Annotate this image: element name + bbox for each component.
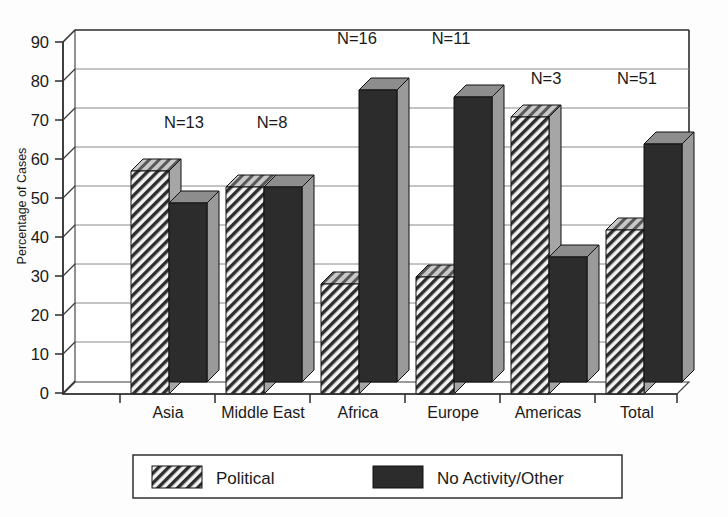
x-category-label-total: Total xyxy=(620,404,654,421)
legend-label-no-activity: No Activity/Other xyxy=(437,469,564,488)
legend-item-no-activity[interactable]: No Activity/Other xyxy=(373,466,564,488)
legend-swatch-political-icon xyxy=(152,466,202,488)
legend-label-political: Political xyxy=(216,469,275,488)
bar-africa-no-activity[interactable] xyxy=(359,78,409,382)
bar-group-middle-east xyxy=(226,175,314,394)
x-category-label-americas: Americas xyxy=(515,404,582,421)
annotation-n-middle-east: N=8 xyxy=(257,113,288,131)
y-tick-label-90: 90 xyxy=(31,33,49,51)
annotation-n-africa: N=16 xyxy=(337,29,377,47)
bar-chart-svg: 90 80 70 60 50 40 30 20 10 0 Percentage … xyxy=(0,0,728,517)
y-tick-label-0: 0 xyxy=(40,384,49,402)
annotation-n-asia: N=13 xyxy=(164,113,204,131)
bar-americas-no-activity[interactable] xyxy=(549,245,599,382)
y-tick-label-10: 10 xyxy=(31,345,49,363)
y-tick-label-50: 50 xyxy=(31,189,49,207)
annotation-n-americas: N=3 xyxy=(531,69,562,87)
plot-left-wall xyxy=(63,30,75,394)
y-tick-label-30: 30 xyxy=(31,267,49,285)
y-tick-label-60: 60 xyxy=(31,150,49,168)
bar-asia-no-activity[interactable] xyxy=(169,191,219,382)
chart-root: 90 80 70 60 50 40 30 20 10 0 Percentage … xyxy=(0,0,728,517)
y-axis-title: Percentage of Cases xyxy=(15,148,29,265)
bar-europe-no-activity[interactable] xyxy=(454,85,504,382)
y-tick-label-40: 40 xyxy=(31,228,49,246)
x-category-label-africa: Africa xyxy=(338,404,379,421)
x-category-label-europe: Europe xyxy=(427,404,479,421)
x-category-label-asia: Asia xyxy=(152,404,183,421)
x-category-label-middle-east: Middle East xyxy=(221,404,305,421)
y-tick-label-70: 70 xyxy=(31,111,49,129)
legend: Political No Activity/Other xyxy=(133,455,622,498)
y-tick-label-20: 20 xyxy=(31,306,49,324)
annotation-n-europe: N=11 xyxy=(432,29,471,47)
legend-swatch-no-activity-icon xyxy=(373,466,423,488)
annotation-n-total: N=51 xyxy=(617,69,657,87)
bar-total-no-activity[interactable] xyxy=(644,132,694,382)
y-tick-label-80: 80 xyxy=(31,72,49,90)
bar-group-asia xyxy=(131,159,219,394)
bar-middle-east-no-activity[interactable] xyxy=(264,175,314,382)
